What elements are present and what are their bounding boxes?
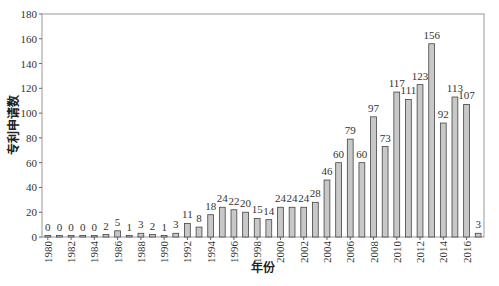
bar (394, 92, 400, 237)
x-tick-label: 2006 (344, 241, 356, 264)
bar-value-label: 15 (252, 203, 264, 215)
bar (382, 147, 388, 237)
bar-value-label: 20 (240, 197, 252, 209)
bar (57, 236, 63, 238)
bar-value-label: 11 (182, 208, 193, 220)
bar (126, 236, 132, 238)
bar-value-label: 111 (401, 84, 417, 96)
bar (301, 207, 307, 237)
y-tick-label: 40 (26, 181, 38, 193)
bar-value-label: 8 (196, 212, 202, 224)
bar-value-label: 18 (205, 200, 217, 212)
bar-value-label: 22 (228, 195, 239, 207)
y-tick-label: 180 (21, 8, 38, 20)
bar (231, 210, 237, 237)
bar (103, 235, 109, 237)
bar (347, 139, 353, 237)
bar-value-label: 60 (333, 148, 345, 160)
bar-value-label: 60 (356, 148, 368, 160)
bar (405, 99, 411, 237)
x-tick-label: 1988 (135, 241, 147, 264)
bar (371, 117, 377, 237)
bar (173, 233, 179, 237)
bar-value-label: 0 (80, 221, 86, 233)
bar (417, 85, 423, 237)
x-tick-label: 2012 (414, 241, 426, 263)
bar (475, 233, 481, 237)
bar-value-label: 0 (45, 221, 51, 233)
bar-value-label: 28 (310, 187, 322, 199)
bar (161, 236, 167, 238)
bar-value-label: 24 (275, 192, 287, 204)
x-tick-label: 1984 (88, 241, 100, 264)
bar-value-label: 5 (115, 216, 121, 228)
x-tick-label: 1982 (65, 241, 77, 263)
y-tick-label: 80 (26, 132, 38, 144)
x-tick-label: 2000 (274, 241, 286, 264)
bar-value-label: 14 (263, 205, 275, 217)
bar (266, 220, 272, 237)
bar (289, 207, 295, 237)
x-axis-title: 年份 (251, 260, 276, 275)
bar (440, 123, 446, 237)
x-tick-label: 1994 (205, 241, 217, 264)
bar-value-label: 73 (380, 132, 392, 144)
bar (336, 163, 342, 237)
y-tick-label: 60 (26, 157, 38, 169)
x-tick-label: 2010 (391, 241, 403, 264)
bar-value-label: 24 (217, 192, 229, 204)
bar-value-label: 0 (57, 221, 63, 233)
bar-value-label: 3 (475, 218, 481, 230)
x-tick-label: 2014 (437, 241, 449, 264)
x-tick-label: 1992 (181, 241, 193, 263)
x-tick-label: 2016 (461, 241, 473, 264)
bar-value-label: 46 (321, 165, 333, 177)
y-tick-label: 100 (21, 107, 38, 119)
y-tick-label: 140 (21, 58, 38, 70)
bar (452, 97, 458, 237)
bar (150, 235, 156, 237)
bar-value-label: 24 (287, 192, 299, 204)
x-tick-label: 1996 (228, 241, 240, 264)
patent-bar-chart: 020406080100120140160180 000002513213118… (0, 0, 499, 286)
bar-value-label: 0 (92, 221, 98, 233)
bar (138, 233, 144, 237)
y-tick-label: 120 (21, 82, 38, 94)
bar-value-label: 107 (458, 89, 475, 101)
bar (219, 207, 225, 237)
x-tick-label: 1986 (112, 241, 124, 264)
x-tick-label: 1980 (42, 241, 54, 264)
bar (324, 180, 330, 237)
x-tick-label: 2004 (321, 241, 333, 264)
y-axis-title: 专利申请数 (6, 94, 21, 155)
bar (359, 163, 365, 237)
bar-value-label: 123 (412, 70, 429, 82)
bar (184, 223, 190, 237)
bar-value-label: 2 (103, 220, 109, 232)
bars: 0000025132131181824222015142424242846607… (45, 29, 482, 237)
x-tick-label: 2008 (368, 241, 380, 264)
bar-value-label: 3 (138, 218, 144, 230)
y-tick-label: 0 (32, 231, 38, 243)
bar (68, 236, 74, 238)
bar-value-label: 97 (368, 102, 380, 114)
bar-value-label: 3 (173, 218, 179, 230)
bar-value-label: 92 (438, 108, 449, 120)
bar-value-label: 79 (345, 124, 357, 136)
bar-value-label: 156 (423, 29, 440, 41)
bar-value-label: 1 (161, 221, 167, 233)
y-tick-label: 160 (21, 33, 38, 45)
bar (312, 202, 318, 237)
bar (254, 218, 260, 237)
bar-value-label: 0 (68, 221, 74, 233)
x-tick-label: 1990 (158, 241, 170, 264)
bar (278, 207, 284, 237)
bar (429, 44, 435, 237)
y-tick-label: 20 (26, 206, 38, 218)
x-tick-label: 2002 (298, 241, 310, 263)
bar (464, 104, 470, 237)
bar (196, 227, 202, 237)
y-axis: 020406080100120140160180 (21, 8, 43, 243)
bar-value-label: 24 (298, 192, 310, 204)
bar (45, 236, 51, 238)
